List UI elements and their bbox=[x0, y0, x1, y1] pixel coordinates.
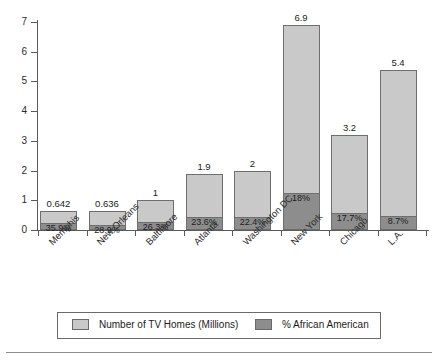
x-tick-mark bbox=[184, 231, 185, 236]
bar-total-label: 3.2 bbox=[323, 123, 376, 133]
y-tick-label: 2 bbox=[0, 166, 27, 176]
x-tick-mark bbox=[329, 231, 330, 236]
bar-total-label: 5.4 bbox=[372, 58, 425, 68]
bar-total-label: 0.642 bbox=[32, 199, 85, 209]
y-tick-mark bbox=[31, 52, 37, 53]
y-tick-mark bbox=[31, 230, 37, 231]
bar-total-label: 1 bbox=[129, 188, 182, 198]
bottom-divider bbox=[6, 352, 432, 353]
x-tick-mark bbox=[426, 231, 427, 236]
y-tick-label: 0 bbox=[0, 225, 27, 235]
bar-segment-tv-homes[interactable] bbox=[380, 70, 417, 230]
bar-total-label: 2 bbox=[226, 159, 279, 169]
legend-entry-tv-homes: Number of TV Homes (Millions) bbox=[72, 319, 238, 330]
legend-label-tv-homes: Number of TV Homes (Millions) bbox=[99, 319, 238, 330]
x-tick-mark bbox=[38, 231, 39, 236]
y-tick-label: 3 bbox=[0, 136, 27, 146]
y-tick-mark bbox=[31, 111, 37, 112]
x-tick-mark bbox=[135, 231, 136, 236]
bar-total-label: 6.9 bbox=[275, 13, 328, 23]
legend-entry-african-american: % African American bbox=[255, 319, 369, 330]
y-tick-mark bbox=[31, 141, 37, 142]
x-tick-mark bbox=[378, 231, 379, 236]
y-tick-label: 4 bbox=[0, 106, 27, 116]
stacked-bar-chart: 01234567 0.64235.9%0.63628.9%126.3%1.923… bbox=[0, 0, 438, 364]
x-tick-mark bbox=[87, 231, 88, 236]
y-tick-mark bbox=[31, 171, 37, 172]
y-tick-mark bbox=[31, 22, 37, 23]
y-tick-label: 1 bbox=[0, 195, 27, 205]
plot-area: 0.64235.9%0.63628.9%126.3%1.923.6%222.4%… bbox=[38, 22, 428, 230]
legend-label-african-american: % African American bbox=[282, 319, 369, 330]
x-tick-mark bbox=[232, 231, 233, 236]
legend-swatch-african-american bbox=[255, 319, 272, 330]
bar-group[interactable]: 5.48.7% bbox=[380, 70, 417, 230]
y-tick-mark bbox=[31, 81, 37, 82]
y-tick-label: 7 bbox=[0, 17, 27, 27]
y-tick-label: 6 bbox=[0, 47, 27, 57]
x-tick-mark bbox=[281, 231, 282, 236]
chart-legend: Number of TV Homes (Millions) % African … bbox=[57, 312, 381, 339]
bar-total-label: 1.9 bbox=[178, 162, 231, 172]
y-tick-label: 5 bbox=[0, 76, 27, 86]
legend-swatch-tv-homes bbox=[72, 319, 89, 330]
bar-percent-label: 8.7% bbox=[380, 217, 417, 226]
